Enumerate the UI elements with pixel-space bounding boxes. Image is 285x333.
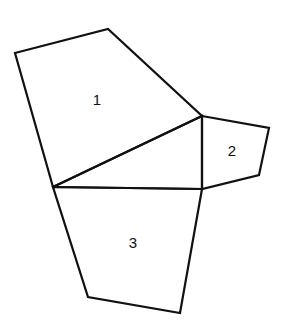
region-3-outline <box>53 187 202 313</box>
region-3-label: 3 <box>129 234 137 251</box>
region-1-label: 1 <box>93 91 101 108</box>
center-triangle-outline <box>53 116 202 189</box>
region-2-label: 2 <box>228 142 236 159</box>
polygon-diagram: 1 2 3 <box>0 0 285 333</box>
region-1-outline <box>15 29 202 187</box>
